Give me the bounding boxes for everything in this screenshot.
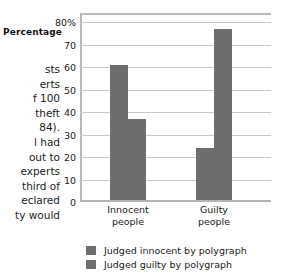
bar: [128, 119, 146, 202]
gridline: [80, 67, 271, 68]
gridline: [80, 157, 271, 158]
gridline: [80, 45, 271, 46]
plot-frame: [80, 13, 271, 202]
y-tick-label: 50: [64, 84, 76, 95]
gridline: [80, 135, 271, 136]
x-tick-label-line: people: [88, 216, 168, 228]
x-tick-label: Guiltypeople: [174, 204, 254, 227]
x-tick-label-line: people: [174, 216, 254, 228]
y-tick-label: 60: [64, 62, 76, 73]
gridline: [80, 22, 271, 23]
body-text-line: ty would: [0, 208, 62, 223]
y-tick-label: 80%: [55, 17, 76, 28]
bar: [214, 29, 232, 202]
gridline: [80, 112, 271, 113]
legend-swatch-icon: [86, 260, 96, 269]
x-tick-label-line: Innocent: [88, 204, 168, 216]
y-tick-label: 30: [64, 129, 76, 140]
gridline: [80, 180, 271, 181]
chart-legend: Judged innocent by polygraphJudged guilt…: [86, 243, 247, 271]
y-tick-label: 70: [64, 39, 76, 50]
bar-chart: [80, 13, 271, 202]
bar: [196, 148, 214, 202]
legend-item: Judged innocent by polygraph: [86, 243, 247, 257]
y-tick-label: 10: [64, 174, 76, 185]
bar: [110, 65, 128, 202]
x-tick-label-line: Guilty: [174, 204, 254, 216]
x-axis-line: [80, 200, 271, 202]
y-tick-label: 40: [64, 107, 76, 118]
legend-label: Judged guilty by polygraph: [104, 259, 232, 270]
legend-item: Judged guilty by polygraph: [86, 257, 247, 271]
y-tick-label: 20: [64, 152, 76, 163]
gridline: [80, 90, 271, 91]
legend-swatch-icon: [86, 246, 96, 255]
x-tick-label: Innocentpeople: [88, 204, 168, 227]
legend-label: Judged innocent by polygraph: [104, 245, 247, 256]
y-axis-tick-labels: 80%706050403020100: [42, 13, 76, 202]
x-axis-category-labels: InnocentpeopleGuiltypeople: [80, 204, 271, 234]
y-tick-label: 0: [70, 197, 76, 208]
